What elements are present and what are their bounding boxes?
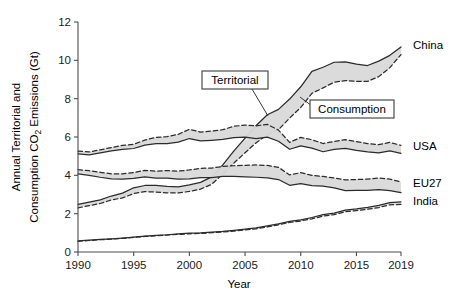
y-tick-label: 8 bbox=[65, 93, 71, 105]
series-label-eu27: EU27 bbox=[413, 177, 442, 189]
x-tick-label: 2005 bbox=[232, 259, 258, 271]
y-axis-title: Annual Territorial and Consumption CO2 E… bbox=[10, 51, 43, 223]
x-tick-label: 2015 bbox=[344, 259, 370, 271]
series-label-china: China bbox=[413, 39, 444, 51]
callout-territorial-label: Territorial bbox=[211, 74, 258, 86]
x-axis-title: Year bbox=[227, 278, 250, 290]
y-axis-title-line2: Consumption CO2 Emissions (Gt) bbox=[28, 51, 43, 223]
x-tick-label: 2000 bbox=[177, 259, 203, 271]
x-tick-label: 2019 bbox=[388, 259, 414, 271]
y-axis-title-line2-pre: Consumption CO bbox=[28, 135, 40, 223]
x-tick-label: 1990 bbox=[65, 259, 91, 271]
y-axis-title-line2-post: Emissions (Gt) bbox=[28, 51, 40, 130]
series-label-india: India bbox=[413, 195, 439, 207]
y-tick-label: 6 bbox=[65, 131, 71, 143]
y-tick-label: 4 bbox=[65, 169, 72, 181]
y-tick-label: 12 bbox=[58, 16, 71, 28]
emissions-line-chart: 024681012 1990199520002005201020152019 Y… bbox=[0, 0, 452, 301]
y-axis-title-line1: Annual Territorial and bbox=[10, 83, 22, 191]
callout-consumption-label: Consumption bbox=[318, 103, 386, 115]
y-tick-label: 10 bbox=[58, 54, 71, 66]
y-ticks: 024681012 bbox=[58, 16, 78, 258]
chart-figure: 024681012 1990199520002005201020152019 Y… bbox=[0, 0, 452, 301]
y-tick-label: 0 bbox=[65, 246, 71, 258]
x-ticks: 1990199520002005201020152019 bbox=[65, 252, 414, 271]
x-tick-label: 2010 bbox=[288, 259, 314, 271]
x-tick-label: 1995 bbox=[121, 259, 147, 271]
callout-consumption: Consumption bbox=[300, 97, 394, 118]
series-label-usa: USA bbox=[413, 140, 437, 152]
y-tick-label: 2 bbox=[65, 208, 71, 220]
